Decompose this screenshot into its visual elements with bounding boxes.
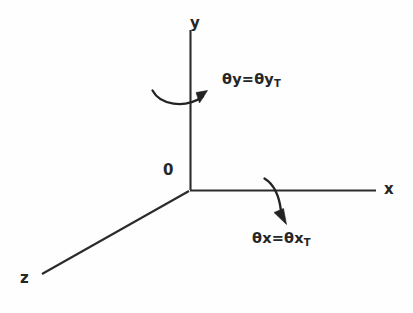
theta-x-base: θx [252, 230, 272, 246]
x-axis-label: x [384, 182, 394, 197]
theta-y-rotation-arc [153, 91, 204, 105]
theta-y-base: θy [222, 71, 242, 87]
theta-x-rotation-arc [265, 179, 282, 212]
theta-x-rotation-label: θx=θxT [252, 231, 311, 248]
z-axis-line [42, 191, 189, 274]
axes-diagram-canvas [0, 0, 413, 313]
theta-x-target: θx [284, 230, 304, 246]
theta-y-subscript: T [274, 78, 281, 89]
z-axis-label: z [20, 271, 29, 286]
theta-x-subscript: T [304, 237, 311, 248]
theta-y-target: θy [254, 71, 274, 87]
theta-x-equals: = [272, 230, 284, 246]
theta-y-arrowhead-icon [196, 91, 208, 104]
theta-y-equals: = [242, 71, 254, 87]
y-axis-label: y [190, 16, 200, 31]
theta-y-rotation-label: θy=θyT [222, 72, 281, 89]
origin-label: 0 [163, 163, 173, 178]
theta-x-arrowhead-icon [274, 209, 287, 225]
